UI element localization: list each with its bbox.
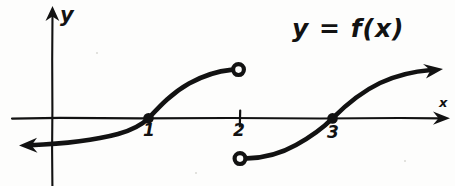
tick-label-1: 1 [143,122,155,139]
paper-speck [96,52,98,54]
curve-left-path [30,70,231,145]
x-axis [12,112,450,125]
tick-label-3: 3 [327,124,339,141]
y-axis [46,6,60,186]
curve-left-branch [19,70,231,153]
paper-speck [404,160,406,162]
tick-label-2: 2 [233,122,245,139]
open-circle-upper-at-x2 [233,64,244,75]
paper-speck [195,172,197,174]
handdrawn-graph-figure: y x y = f(x) 1 2 3 [0,0,455,186]
x-axis-label: x [439,96,447,109]
x-axis-line [12,118,440,119]
function-equation-label: y = f(x) [292,16,405,41]
curve-right-branch [247,64,443,158]
curve-right-path [247,70,431,158]
open-circle-lower-at-x2 [235,153,246,164]
y-axis-label: y [60,5,74,26]
